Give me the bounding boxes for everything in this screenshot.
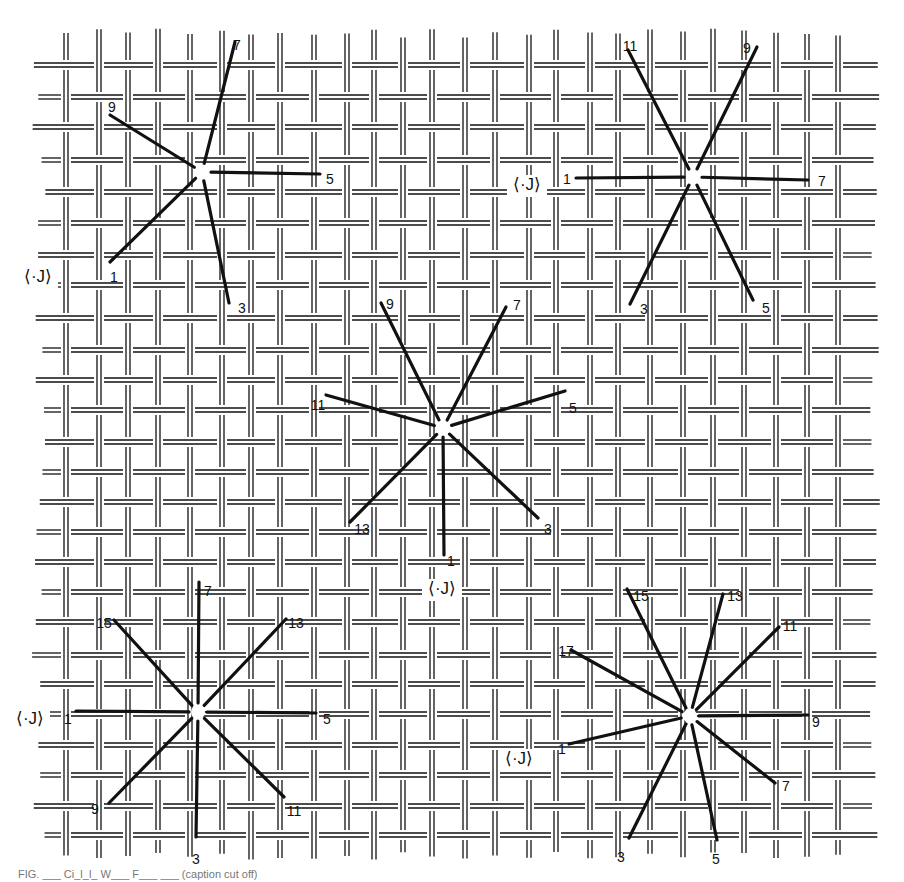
- ray-label: 11: [783, 618, 798, 634]
- ray-label: 9: [743, 40, 751, 56]
- ray-9: [699, 715, 808, 716]
- ray-13: [350, 434, 437, 522]
- j-marker-symbol: ⟨·J⟩: [24, 267, 52, 286]
- ray-label: 13: [354, 521, 370, 537]
- ray-label: 7: [782, 778, 790, 794]
- ray-label: 9: [812, 714, 820, 730]
- ray-11: [204, 718, 284, 797]
- ray-15: [627, 589, 686, 708]
- ray-label: 7: [233, 37, 241, 53]
- figure-caption: FIG. ___ Ci_l_l_ W___ F___ ___ (caption …: [18, 868, 257, 882]
- intersection-knot: [683, 709, 697, 723]
- ray-9: [109, 718, 192, 803]
- ray-7: [198, 582, 199, 703]
- ray-label: 1: [447, 553, 455, 569]
- ray-label: 15: [96, 615, 112, 631]
- ray-label: 11: [287, 803, 302, 819]
- ray-label: 9: [386, 296, 394, 312]
- j-marker-symbol: ⟨·J⟩: [513, 175, 541, 194]
- ray-label: 3: [192, 851, 200, 867]
- ray-label: 1: [558, 741, 566, 757]
- ray-3: [629, 724, 686, 838]
- intersection-knot: [686, 170, 700, 184]
- ray-1: [443, 437, 444, 555]
- ray-label: 5: [712, 851, 720, 867]
- ray-label: 7: [204, 583, 212, 599]
- intersection-knot: [195, 165, 209, 179]
- star-top-left: 13579⟨·J⟩: [18, 37, 334, 316]
- ray-3: [204, 181, 229, 303]
- ray-1: [76, 711, 189, 712]
- weave-diagram: 13579⟨·J⟩1357911⟨·J⟩135791113⟨·J⟩1357911…: [0, 0, 904, 882]
- ray-label: 1: [64, 711, 72, 727]
- ray-label: 7: [818, 173, 826, 189]
- j-marker-symbol: ⟨·J⟩: [16, 709, 44, 728]
- ray-9: [110, 115, 194, 167]
- ray-label: 5: [762, 300, 770, 316]
- ray-3: [196, 721, 198, 837]
- ray-label: 3: [238, 300, 246, 316]
- ray-label: 1: [563, 171, 571, 187]
- ray-11: [696, 627, 779, 710]
- ray-label: 11: [311, 397, 326, 413]
- star-bottom-right: 1357911131517⟨·J⟩: [499, 588, 820, 867]
- ray-label: 13: [288, 615, 304, 631]
- ray-1: [569, 718, 681, 744]
- intersection-knot: [191, 705, 205, 719]
- ray-label: 15: [633, 588, 649, 604]
- ray-label: 5: [323, 711, 331, 727]
- ray-label: 11: [623, 38, 638, 54]
- ray-5: [692, 725, 717, 840]
- ray-7: [702, 177, 808, 180]
- ray-13: [692, 594, 723, 707]
- ray-1: [110, 178, 196, 262]
- j-marker-symbol: ⟨·J⟩: [505, 749, 533, 768]
- ray-label: 3: [640, 301, 648, 317]
- ray-label: 17: [558, 643, 574, 659]
- ray-1: [576, 177, 684, 178]
- ray-label: 7: [513, 297, 521, 313]
- ray-label: 1: [110, 269, 118, 285]
- ray-9: [697, 47, 757, 169]
- ray-5: [211, 172, 320, 174]
- ray-label: 5: [326, 171, 334, 187]
- ray-5: [207, 712, 316, 713]
- j-marker-symbol: ⟨·J⟩: [428, 579, 456, 598]
- ray-label: 13: [727, 588, 743, 604]
- intersection-knot: [436, 421, 450, 435]
- star-bottom-left: 13579111315⟨·J⟩: [10, 582, 331, 867]
- ray-13: [204, 619, 286, 705]
- ray-11: [628, 50, 689, 169]
- fabric-grid: [32, 29, 880, 860]
- ray-label: 3: [617, 849, 625, 865]
- ray-label: 5: [569, 400, 577, 416]
- ray-label: 3: [544, 521, 552, 537]
- ray-7: [697, 722, 775, 783]
- ray-3: [630, 185, 689, 304]
- star-intersections: 13579⟨·J⟩1357911⟨·J⟩135791113⟨·J⟩1357911…: [10, 37, 826, 867]
- star-center: 135791113⟨·J⟩: [311, 296, 577, 601]
- ray-label: 9: [91, 801, 99, 817]
- ray-label: 9: [108, 99, 116, 115]
- ray-11: [326, 395, 434, 426]
